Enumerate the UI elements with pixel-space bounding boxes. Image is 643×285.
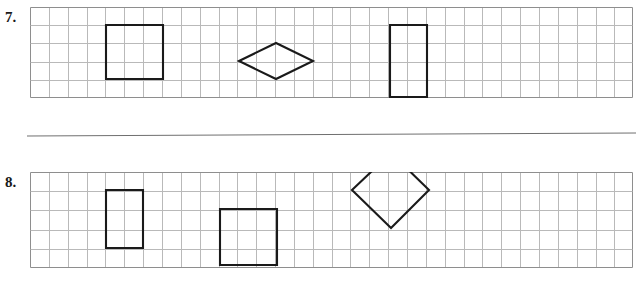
problem-number-7: 7. xyxy=(5,10,16,25)
problem-number-8: 8. xyxy=(5,175,16,190)
horizontal-rule xyxy=(27,133,636,136)
section-divider xyxy=(27,130,636,142)
grid-lines-8 xyxy=(30,172,633,268)
grid-panel-7 xyxy=(30,7,633,98)
grid-lines-7 xyxy=(30,7,633,98)
divider-line xyxy=(27,130,636,142)
worksheet-page: 7. 8. xyxy=(0,0,643,285)
grid-panel-8 xyxy=(30,172,633,268)
